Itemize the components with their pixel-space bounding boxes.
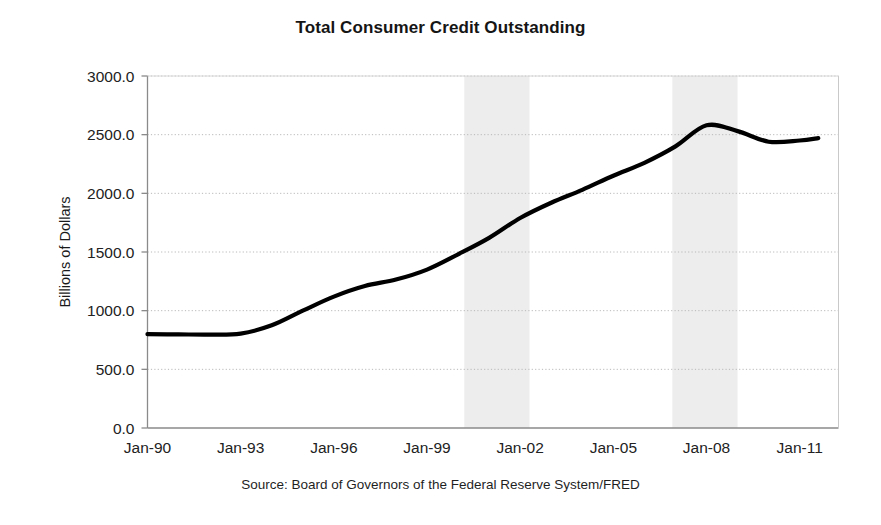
y-axis-title-text: Billions of Dollars (57, 196, 73, 307)
x-tick-label: Jan-08 (683, 439, 730, 456)
x-tick-label: Jan-93 (217, 439, 264, 456)
y-tick-label: 1000.0 (87, 302, 135, 319)
chart-figure: Total Consumer Credit Outstanding 3000.0… (0, 0, 881, 525)
x-tick-label: Jan-90 (124, 439, 172, 456)
y-tick-label: 1500.0 (87, 244, 135, 261)
x-tick-label: Jan-96 (310, 439, 357, 456)
y-axis-title: Billions of Dollars (57, 196, 73, 307)
x-axis-tick-labels: Jan-90Jan-93Jan-96Jan-99Jan-02Jan-05Jan-… (124, 439, 823, 456)
y-tick-label: 2500.0 (87, 126, 135, 143)
y-axis-tick-labels: 3000.02500.02000.01500.01000.0500.00.0 (87, 68, 135, 437)
y-axis-ticks-group (142, 76, 148, 428)
x-tick-label: Jan-02 (496, 439, 543, 456)
y-tick-label: 3000.0 (87, 68, 135, 85)
line-chart-canvas: 3000.02500.02000.01500.01000.0500.00.0 J… (0, 0, 881, 525)
x-tick-label: Jan-11 (777, 439, 823, 456)
y-tick-label: 0.0 (113, 420, 135, 437)
y-tick-label: 500.0 (96, 361, 135, 378)
x-tick-label: Jan-05 (590, 439, 637, 456)
source-caption: Source: Board of Governors of the Federa… (0, 477, 881, 492)
x-tick-label: Jan-99 (403, 439, 450, 456)
y-tick-label: 2000.0 (87, 185, 135, 202)
